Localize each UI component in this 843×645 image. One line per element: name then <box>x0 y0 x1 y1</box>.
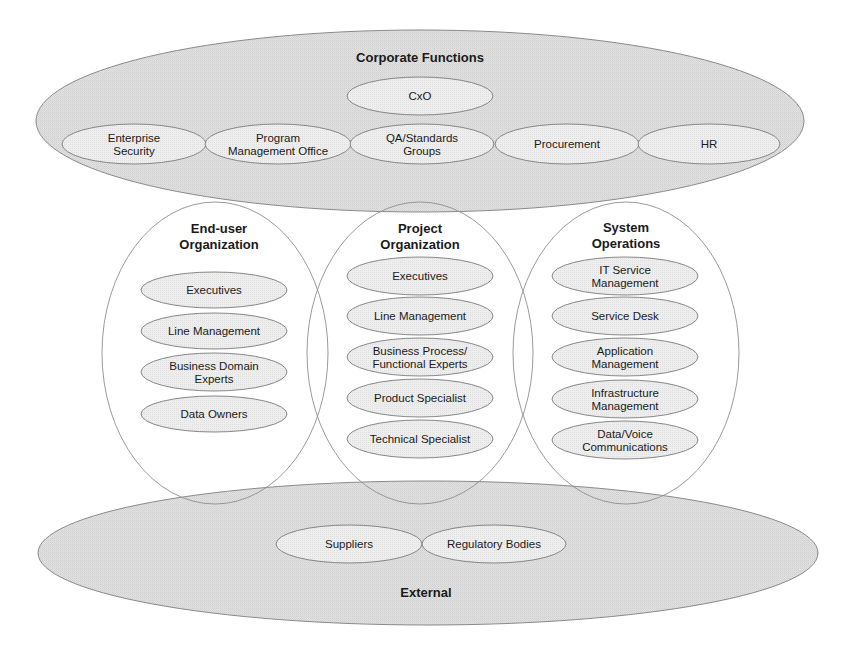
node-label: Infrastructure <box>591 387 659 399</box>
node-end-user-organization-business-domain-experts: Business DomainExperts <box>141 353 287 391</box>
node-system-operations-service-desk: Service Desk <box>552 297 698 335</box>
node-label: Program <box>256 132 300 144</box>
node-label: Communications <box>582 441 668 453</box>
node-regulatory-bodies: Regulatory Bodies <box>422 525 566 563</box>
node-label: Data/Voice <box>597 428 653 440</box>
node-project-organization-business-process-functional-experts: Business Process/Functional Experts <box>347 338 493 376</box>
system-operations-title: System <box>603 220 649 235</box>
end-user-organization-title: End-user <box>191 221 247 236</box>
node-label: Business Process/ <box>373 345 468 357</box>
node-suppliers: Suppliers <box>276 525 422 563</box>
node-qa-standards-groups: QA/StandardsGroups <box>350 124 494 164</box>
node-system-operations-it-service-management: IT ServiceManagement <box>552 257 698 295</box>
node-end-user-organization-data-owners: Data Owners <box>141 396 287 432</box>
external-ellipse <box>38 481 818 625</box>
external-title: External <box>400 585 451 600</box>
node-label: Management <box>591 277 659 289</box>
node-label: Groups <box>403 145 441 157</box>
node-enterprise-security: EnterpriseSecurity <box>62 124 206 164</box>
node-label: Management <box>591 400 659 412</box>
node-label: Product Specialist <box>374 392 467 404</box>
node-label: Experts <box>195 373 234 385</box>
node-label: Management <box>591 358 659 370</box>
node-project-organization-executives: Executives <box>347 257 493 295</box>
end-user-organization-title: Organization <box>179 237 259 252</box>
node-project-organization-technical-specialist: Technical Specialist <box>347 420 493 458</box>
organization-circle-outlines: End-userOrganizationExecutivesLine Manag… <box>102 202 739 504</box>
project-organization-title: Organization <box>380 237 460 252</box>
node-label: Application <box>597 345 653 357</box>
project-organization-circle: ProjectOrganizationExecutivesLine Manage… <box>307 202 533 504</box>
node-label: Procurement <box>534 138 601 150</box>
end-user-organization-circle: End-userOrganizationExecutivesLine Manag… <box>102 202 328 504</box>
node-end-user-organization-line-management: Line Management <box>141 313 287 349</box>
node-label: Technical Specialist <box>370 433 471 445</box>
node-end-user-organization-executives: Executives <box>141 272 287 308</box>
node-hr: HR <box>638 124 780 164</box>
node-project-organization-product-specialist: Product Specialist <box>347 379 493 417</box>
node-label: Business Domain <box>169 360 258 372</box>
node-label: Security <box>113 145 155 157</box>
node-label: Enterprise <box>108 132 160 144</box>
node-label: Functional Experts <box>372 358 467 370</box>
node-label: Regulatory Bodies <box>447 538 541 550</box>
node-system-operations-application-management: ApplicationManagement <box>552 338 698 376</box>
corporate-functions-title: Corporate Functions <box>356 50 484 65</box>
node-label: CxO <box>409 90 432 102</box>
node-label: Suppliers <box>325 538 373 550</box>
node-label: HR <box>701 138 718 150</box>
node-label: QA/Standards <box>386 132 458 144</box>
node-system-operations-data-voice-communications: Data/VoiceCommunications <box>552 421 698 459</box>
corporate-functions-group: Corporate Functions CxOEnterpriseSecurit… <box>36 30 804 212</box>
system-operations-title: Operations <box>592 236 661 251</box>
node-label: Line Management <box>168 325 261 337</box>
system-operations-circle: SystemOperationsIT ServiceManagementServ… <box>513 202 739 504</box>
node-project-organization-line-management: Line Management <box>347 297 493 335</box>
node-label: Management Office <box>228 145 328 157</box>
project-organization-title: Project <box>398 221 443 236</box>
node-label: IT Service <box>599 264 651 276</box>
node-label: Executives <box>186 284 242 296</box>
node-system-operations-infrastructure-management: InfrastructureManagement <box>552 380 698 418</box>
node-label: Line Management <box>374 310 467 322</box>
node-label: Service Desk <box>591 310 659 322</box>
stakeholder-diagram: SuppliersRegulatory Bodies External Corp… <box>0 0 843 645</box>
node-label: Data Owners <box>180 408 247 420</box>
node-procurement: Procurement <box>495 124 639 164</box>
node-cxo: CxO <box>347 77 493 115</box>
external-group: SuppliersRegulatory Bodies External <box>38 481 818 625</box>
node-label: Executives <box>392 270 448 282</box>
node-program-management-office: ProgramManagement Office <box>205 124 351 164</box>
